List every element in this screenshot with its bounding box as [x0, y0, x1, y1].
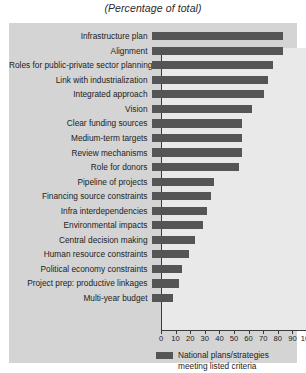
bar-track — [152, 189, 297, 204]
bar-track — [152, 44, 297, 59]
x-axis-tick-label: 30 — [201, 334, 209, 343]
bar-category-label: Environmental impacts — [9, 221, 152, 229]
x-axis-tick-label: 40 — [215, 334, 223, 343]
bar-row: Alignment — [9, 44, 297, 59]
bar-track — [152, 247, 297, 262]
bar-category-label: Medium-term targets — [9, 134, 152, 142]
bar-track — [152, 29, 297, 44]
bar — [152, 119, 243, 127]
x-axis-tick-label: 20 — [186, 334, 194, 343]
bar-category-label: Pipeline of projects — [9, 178, 152, 186]
x-axis-tick-label: 60 — [244, 334, 252, 343]
bar-row: Medium-term targets — [9, 131, 297, 146]
x-axis-tick-label: 10 — [171, 334, 179, 343]
bar-track — [152, 145, 297, 160]
bar-category-label: Financing source constraints — [9, 192, 152, 200]
bar-row: Vision — [9, 102, 297, 117]
chart-title: (Percentage of total) — [0, 2, 306, 14]
bar-track — [152, 233, 297, 248]
bar-track — [152, 204, 297, 219]
x-axis-tick-label: 100 — [301, 334, 306, 343]
bar-category-label: Alignment — [9, 47, 152, 55]
bar — [152, 178, 215, 186]
bar-category-label: Integrated approach — [9, 90, 152, 98]
bar — [152, 47, 283, 55]
legend-label: National plans/strategies meeting listed… — [178, 350, 298, 371]
bar — [152, 134, 243, 142]
bar — [152, 221, 203, 229]
bar-category-label: Political economy constraints — [9, 265, 152, 273]
bar-category-label: Multi-year budget — [9, 294, 152, 302]
bar — [152, 265, 183, 273]
chart-panel: Infrastructure planAlignmentRoles for pu… — [9, 23, 297, 363]
bar — [152, 236, 196, 244]
bar-track — [152, 218, 297, 233]
chart-figure: (Percentage of total) Infrastructure pla… — [0, 0, 306, 373]
bar-category-label: Review mechanisms — [9, 149, 152, 157]
bar-track — [152, 160, 297, 175]
bar-row: Integrated approach — [9, 87, 297, 102]
bar — [152, 105, 253, 113]
legend: National plans/strategies meeting listed… — [156, 350, 301, 373]
bar-row: Human resource constraints — [9, 247, 297, 262]
bar-track — [152, 102, 297, 117]
bar-category-label: Vision — [9, 105, 152, 113]
bar-row: Financing source constraints — [9, 189, 297, 204]
x-axis-tick-label: 80 — [274, 334, 282, 343]
bar — [152, 279, 180, 287]
bar-row: Central decision making — [9, 233, 297, 248]
x-axis-tick-label: 50 — [230, 334, 238, 343]
bar-track — [152, 262, 297, 277]
bar — [152, 148, 243, 156]
bar-row: Clear funding sources — [9, 116, 297, 131]
bar-track — [152, 87, 297, 102]
bar — [152, 76, 269, 84]
bar-row: Link with industrialization — [9, 73, 297, 88]
bar-row: Multi-year budget — [9, 291, 297, 306]
bar-track — [152, 116, 297, 131]
bar-category-label: Project prep: productive linkages — [9, 279, 152, 287]
bar — [152, 207, 207, 215]
bar-category-label: Link with industrialization — [9, 76, 152, 84]
bar-category-label: Role for donors — [9, 163, 152, 171]
bar-row: Infrastructure plan — [9, 29, 297, 44]
bar-row: Roles for public-private sector planning — [9, 58, 297, 73]
bar-row: Environmental impacts — [9, 218, 297, 233]
legend-swatch-icon — [156, 352, 173, 359]
bar-rows: Infrastructure planAlignmentRoles for pu… — [9, 29, 297, 301]
bar-track — [152, 276, 297, 291]
bar-category-label: Infrastructure plan — [9, 32, 152, 40]
bar — [152, 61, 273, 69]
x-axis-tick-label: 70 — [259, 334, 267, 343]
bar-track — [152, 73, 297, 88]
bar-row: Infra interdependencies — [9, 204, 297, 219]
bar-row: Pipeline of projects — [9, 174, 297, 189]
bar-category-label: Human resource constraints — [9, 250, 152, 258]
bar-track — [152, 174, 297, 189]
bar-track — [152, 58, 297, 73]
bar-category-label: Roles for public-private sector planning — [9, 61, 152, 69]
bar-row: Project prep: productive linkages — [9, 276, 297, 291]
bar — [152, 250, 190, 258]
bar-category-label: Infra interdependencies — [9, 207, 152, 215]
x-axis-tick-labels: 0102030405060708090100 — [161, 334, 306, 346]
bar-row: Review mechanisms — [9, 145, 297, 160]
bar-track — [152, 131, 297, 146]
bar-row: Role for donors — [9, 160, 297, 175]
x-axis-tick-label: 90 — [288, 334, 296, 343]
bar-row: Political economy constraints — [9, 262, 297, 277]
x-axis-tick-label: 0 — [159, 334, 163, 343]
bar — [152, 90, 264, 98]
bar-track — [152, 291, 297, 306]
bar — [152, 32, 283, 40]
bar-category-label: Clear funding sources — [9, 119, 152, 127]
bar — [152, 294, 174, 302]
bar-category-label: Central decision making — [9, 236, 152, 244]
bar — [152, 192, 212, 200]
bar — [152, 163, 240, 171]
